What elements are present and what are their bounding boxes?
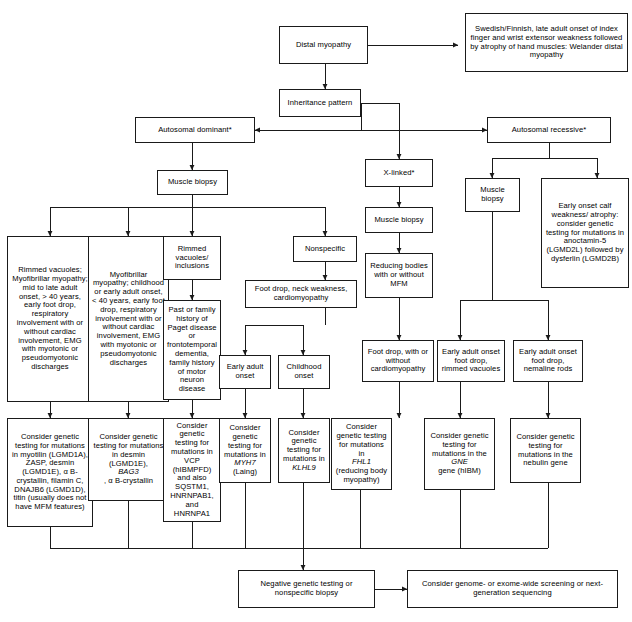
node-foot-drop-neck-weakness[interactable]: Foot drop, neck weakness, cardiomyopathy <box>245 280 357 308</box>
node-genetic-testing-gne[interactable]: Consider genetic testing for mutations i… <box>424 418 495 490</box>
node-rimmed-vacuoles-inclusions[interactable]: Rimmed vacuoles/ inclusions <box>163 236 221 280</box>
node-early-adult-rimmed-vacuoles[interactable]: Early adult onset foot drop, rimmed vacu… <box>437 340 505 382</box>
node-genetic-testing-myh7[interactable]: Consider genetic testing for mutations i… <box>219 418 271 483</box>
genetic-myh7-text: Consider genetic testing for mutations i… <box>223 424 267 477</box>
genetic-klhl9-text: Consider genetic testing for mutations i… <box>282 429 326 473</box>
node-genetic-testing-myotilin[interactable]: Consider genetic testing for mutations i… <box>7 418 93 527</box>
node-autosomal-recessive[interactable]: Autosomal recessive* <box>487 117 611 143</box>
node-x-linked[interactable]: X-linked* <box>365 159 433 187</box>
genetic-desmin-text: Consider genetic testing for mutations i… <box>92 433 165 486</box>
node-muscle-biopsy-dominant[interactable]: Muscle biopsy <box>157 170 228 195</box>
node-genetic-testing-fhl1[interactable]: Consider genetic testing for mutations i… <box>331 418 392 490</box>
node-genetic-testing-vcp[interactable]: Consider genetic testing for mutations i… <box>163 418 221 522</box>
node-paget-history[interactable]: Past or family history of Paget disease … <box>163 300 221 400</box>
node-inheritance-pattern[interactable]: Inheritance pattern <box>279 89 361 117</box>
node-genetic-testing-nebulin[interactable]: Consider genetic testing for mutations i… <box>510 418 581 483</box>
node-negative-genetic-testing[interactable]: Negative genetic testing or nonspecific … <box>238 570 375 608</box>
flowchart-canvas: Distal myopathy Swedish/Finnish, late ad… <box>0 0 632 622</box>
genetic-gne-text: Consider genetic testing for mutations i… <box>428 432 491 476</box>
node-genetic-testing-desmin[interactable]: Consider genetic testing for mutations i… <box>88 418 169 501</box>
node-rimmed-vacuoles-mfm[interactable]: Rimmed vacuoles; Myofibrillar myopathy; … <box>7 236 93 402</box>
node-childhood-onset[interactable]: Childhood onset <box>278 355 330 389</box>
node-early-adult-onset[interactable]: Early adult onset <box>219 355 271 389</box>
genetic-fhl1-text: Consider genetic testing for mutations i… <box>335 423 388 485</box>
node-welander-distal-myopathy[interactable]: Swedish/Finnish, late adult onset of ind… <box>465 13 628 72</box>
node-early-onset-calf-weakness[interactable]: Early onset calf weakness/ atrophy: cons… <box>541 178 629 288</box>
node-foot-drop-cardiomyopathy[interactable]: Foot drop, with or without cardiomyopath… <box>362 340 434 382</box>
node-early-adult-nemaline-rods[interactable]: Early adult onset foot drop, nemaline ro… <box>513 340 583 382</box>
node-muscle-biopsy-recessive[interactable]: Muscle biopsy <box>465 178 520 212</box>
node-muscle-biopsy-x-linked[interactable]: Muscle biopsy <box>365 207 433 233</box>
node-genome-exome-wide-screening[interactable]: Consider genome- or exome-wide screening… <box>407 570 618 608</box>
node-myofibrillar-childhood[interactable]: Myofibrillar myopathy; childhood or earl… <box>88 236 169 402</box>
node-autosomal-dominant[interactable]: Autosomal dominant* <box>135 117 255 143</box>
node-reducing-bodies[interactable]: Reducing bodies with or without MFM <box>365 253 433 298</box>
node-genetic-testing-klhl9[interactable]: Consider genetic testing for mutations i… <box>278 418 330 483</box>
node-nonspecific[interactable]: Nonspecific <box>293 236 357 262</box>
node-distal-myopathy[interactable]: Distal myopathy <box>279 26 368 64</box>
